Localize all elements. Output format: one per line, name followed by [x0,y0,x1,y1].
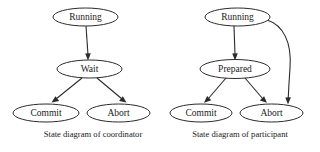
node-running-coordinator[interactable]: Running [53,8,118,26]
edge-prepared-to-abort-right [245,78,267,103]
node-commit-participant[interactable]: Commit [170,104,232,122]
edge-wait-to-commit-left [52,78,83,103]
caption-coordinator: State diagram of coordinator [44,129,143,139]
node-wait-coordinator[interactable]: Wait [57,60,122,78]
node-abort-participant[interactable]: Abort [240,104,303,122]
node-running-participant-label: Running [221,12,254,22]
node-abort-participant-label: Abort [260,108,283,118]
figure-canvas: Running Wait Commit Abort State diagram … [0,0,320,152]
diagram-participant: Running Prepared Commit Abort State diag… [170,8,303,139]
diagram-coordinator: Running Wait Commit Abort State diagram … [13,8,150,139]
node-wait-coordinator-label: Wait [81,64,99,74]
node-abort-coordinator-label: Abort [107,108,130,118]
node-commit-participant-label: Commit [185,108,217,118]
edge-prepared-to-commit-right [204,78,226,103]
node-commit-coordinator[interactable]: Commit [13,104,79,122]
node-commit-coordinator-label: Commit [30,108,62,118]
node-abort-coordinator[interactable]: Abort [87,104,150,122]
node-prepared-participant[interactable]: Prepared [200,60,270,79]
edge-running-to-abort-right [267,20,291,105]
node-running-coordinator-label: Running [69,12,102,22]
caption-participant: State diagram of participant [192,129,288,139]
edge-running-to-prepared-right [232,26,238,61]
node-prepared-participant-label: Prepared [218,64,252,74]
node-running-participant[interactable]: Running [205,8,270,26]
edge-running-to-wait-left [85,26,91,61]
edge-wait-to-abort-left [97,78,127,103]
